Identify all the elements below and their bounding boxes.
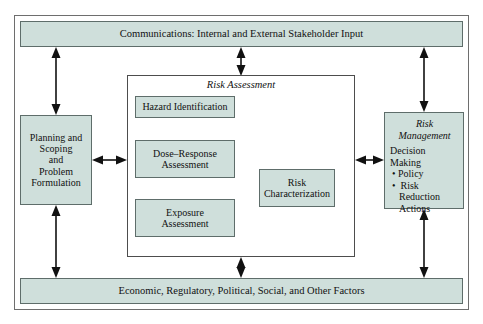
exposure-label-line-2: Assessment xyxy=(161,218,208,229)
risk-management-bullet-risk-reduction-line-1: Risk Reduction xyxy=(399,180,440,203)
economic-factors-box: Economic, Regulatory, Political, Social,… xyxy=(20,278,463,304)
hazard-identification-box: Hazard Identification xyxy=(135,96,235,118)
risk-management-bullet-risk-reduction: Risk Reduction Actions xyxy=(390,180,459,215)
communications-label: Communications: Internal and External St… xyxy=(120,28,363,40)
risk-management-title-line-1: Risk xyxy=(416,118,433,129)
decision-making-heading: Decision Making xyxy=(390,145,459,168)
economic-factors-label: Economic, Regulatory, Political, Social,… xyxy=(118,285,364,297)
dose-response-assessment-box: Dose–Response Assessment xyxy=(135,140,235,178)
risk-management-title: Risk Management xyxy=(390,118,459,141)
communications-box: Communications: Internal and External St… xyxy=(20,21,463,47)
risk-characterization-label-line-1: Risk xyxy=(288,177,306,188)
planning-label-line-1: Planning and xyxy=(30,132,83,143)
exposure-label-line-1: Exposure xyxy=(166,207,204,218)
risk-management-bullet-policy: Policy xyxy=(390,168,459,180)
risk-characterization-label-line-2: Characterization xyxy=(264,188,330,199)
planning-label-line-4: Problem xyxy=(39,166,73,177)
risk-characterization-box: Risk Characterization xyxy=(259,169,335,207)
exposure-assessment-box: Exposure Assessment xyxy=(135,199,235,237)
risk-management-box: Risk Management Decision Making Policy R… xyxy=(384,112,464,209)
risk-management-title-line-2: Management xyxy=(398,130,450,141)
dose-response-label-line-2: Assessment xyxy=(161,159,208,170)
risk-management-bullet-risk-reduction-line-2: Actions xyxy=(399,203,430,214)
hazard-identification-label: Hazard Identification xyxy=(142,101,227,112)
risk-assessment-title: Risk Assessment xyxy=(127,79,355,90)
planning-label-line-2: Scoping xyxy=(40,143,73,154)
risk-management-bullet-list: Policy Risk Reduction Actions xyxy=(390,168,459,214)
planning-and-scoping-box: Planning and Scoping and Problem Formula… xyxy=(20,115,92,205)
risk-assessment-diagram: Communications: Internal and External St… xyxy=(0,0,483,324)
planning-label-line-3: and xyxy=(49,154,63,165)
dose-response-label-line-1: Dose–Response xyxy=(153,148,217,159)
planning-label-line-5: Formulation xyxy=(31,177,80,188)
